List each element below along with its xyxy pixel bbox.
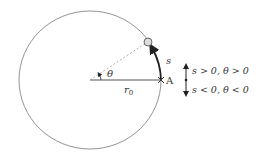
arc-label: s bbox=[166, 55, 171, 66]
radius-label: r0 bbox=[124, 84, 133, 97]
point-a-label: A bbox=[165, 75, 174, 86]
ball bbox=[144, 38, 152, 46]
dotted-radius-line bbox=[90, 43, 146, 80]
negative-direction-label: s < 0, θ < 0 bbox=[192, 84, 249, 95]
diagram-canvas: s θ r0 A s > 0, θ > 0 s < 0, θ < 0 bbox=[0, 0, 264, 153]
angle-arc-icon bbox=[99, 74, 101, 80]
arc-s-arrow bbox=[152, 48, 161, 80]
positive-direction-label: s > 0, θ > 0 bbox=[192, 65, 249, 76]
angle-label: θ bbox=[107, 68, 113, 79]
direction-indicator bbox=[185, 66, 188, 94]
